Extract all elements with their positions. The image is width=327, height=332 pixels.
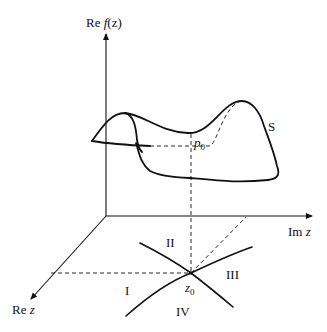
critical-point-dot: [189, 271, 193, 275]
saddle-point-subscript: 0: [201, 142, 206, 152]
axis-label-var: z: [30, 302, 35, 317]
horizontal-axis-label: Im z: [288, 225, 311, 238]
region-label-4: IV: [176, 305, 190, 318]
saddle-point-label: p0: [194, 136, 205, 152]
axis-label-prefix: Im: [288, 224, 306, 239]
critical-point-label: z0: [185, 281, 195, 297]
diagram-canvas: [0, 0, 327, 332]
critical-point-subscript: 0: [190, 287, 195, 297]
region-label-2: II: [166, 236, 175, 249]
axis-label-prefix: Re: [86, 15, 104, 30]
axis-label-var: z: [306, 224, 311, 239]
axis-label-prefix: Re: [12, 302, 30, 317]
surface-s: [92, 101, 278, 181]
depth-axis-re-z: [31, 216, 106, 299]
surface-label: S: [268, 120, 275, 133]
axis-label-arg: (z): [107, 15, 121, 30]
region-label-3: III: [226, 268, 239, 281]
region-label-1: I: [125, 284, 129, 297]
vertical-axis-label: Re f(z): [86, 16, 122, 29]
saddle-point-diagram: Re f(z) Im z Re z S p0 z0 I II III IV: [0, 0, 327, 332]
depth-axis-label: Re z: [12, 303, 35, 316]
